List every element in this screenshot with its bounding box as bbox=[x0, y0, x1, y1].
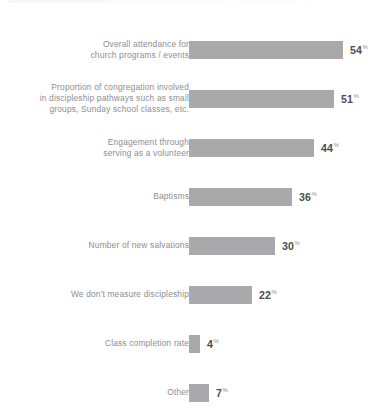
bar-track: 30% bbox=[189, 237, 392, 255]
bar bbox=[189, 139, 314, 157]
table-row: Baptisms 36% bbox=[0, 172, 392, 221]
bar-track: 22% bbox=[189, 286, 392, 304]
bar bbox=[189, 286, 252, 304]
bar-track: 44% bbox=[189, 139, 392, 157]
bar-category-label: Baptisms bbox=[11, 191, 189, 202]
table-row: We don't measure discipleship 22% bbox=[0, 270, 392, 319]
clipped-header-artifact bbox=[8, 0, 308, 3]
bar-track: 4% bbox=[189, 335, 392, 353]
bar-value-label: 30% bbox=[282, 240, 300, 252]
bar-category-label: Class completion rate bbox=[11, 338, 189, 349]
bar-value-label: 36% bbox=[299, 191, 317, 203]
bar-category-label: Engagement through serving as a voluntee… bbox=[11, 136, 189, 159]
table-row: Overall attendance for church programs /… bbox=[0, 25, 392, 74]
bar-value-number: 51 bbox=[341, 93, 353, 105]
bar bbox=[189, 90, 334, 108]
percent-symbol: % bbox=[214, 338, 219, 344]
percent-symbol: % bbox=[272, 289, 277, 295]
bar-value-label: 44% bbox=[321, 142, 339, 154]
bar bbox=[189, 384, 209, 402]
percent-symbol: % bbox=[223, 387, 228, 393]
bar bbox=[189, 41, 343, 59]
bar-category-label: Other bbox=[11, 387, 189, 398]
bar-category-label: We don't measure discipleship bbox=[11, 289, 189, 300]
bar-value-number: 7 bbox=[216, 387, 222, 399]
bar bbox=[189, 188, 292, 206]
bar-track: 51% bbox=[189, 90, 392, 108]
bar-value-number: 4 bbox=[207, 338, 213, 350]
bar-track: 54% bbox=[189, 41, 392, 59]
bar-value-number: 30 bbox=[282, 240, 294, 252]
bar-value-label: 22% bbox=[259, 289, 277, 301]
percent-symbol: % bbox=[295, 240, 300, 246]
bar-value-label: 54% bbox=[350, 44, 368, 56]
bar-value-label: 51% bbox=[341, 93, 359, 105]
horizontal-bar-chart: Overall attendance for church programs /… bbox=[0, 0, 392, 411]
bar bbox=[189, 335, 200, 353]
bar-category-label: Proportion of congregation involved in d… bbox=[11, 81, 189, 115]
percent-symbol: % bbox=[334, 142, 339, 148]
bar-value-label: 4% bbox=[207, 338, 219, 350]
bar-track: 36% bbox=[189, 188, 392, 206]
bar bbox=[189, 237, 275, 255]
table-row: Proportion of congregation involved in d… bbox=[0, 74, 392, 123]
bar-value-label: 7% bbox=[216, 387, 228, 399]
bar-category-label: Overall attendance for church programs /… bbox=[11, 38, 189, 61]
table-row: Engagement through serving as a voluntee… bbox=[0, 123, 392, 172]
table-row: Other 7% bbox=[0, 368, 392, 411]
bar-value-number: 54 bbox=[350, 44, 362, 56]
bar-value-number: 36 bbox=[299, 191, 311, 203]
bar-value-number: 44 bbox=[321, 142, 333, 154]
percent-symbol: % bbox=[312, 191, 317, 197]
bar-track: 7% bbox=[189, 384, 392, 402]
bar-value-number: 22 bbox=[259, 289, 271, 301]
table-row: Number of new salvations 30% bbox=[0, 221, 392, 270]
chart-rows: Overall attendance for church programs /… bbox=[0, 25, 392, 411]
bar-category-label: Number of new salvations bbox=[11, 240, 189, 251]
percent-symbol: % bbox=[363, 44, 368, 50]
percent-symbol: % bbox=[354, 93, 359, 99]
table-row: Class completion rate 4% bbox=[0, 319, 392, 368]
